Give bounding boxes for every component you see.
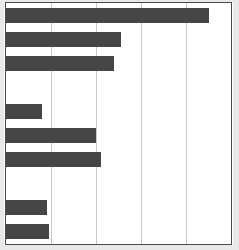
bar xyxy=(6,152,101,167)
bar-slot xyxy=(6,176,231,191)
bar-slot xyxy=(6,128,231,143)
bar-slot xyxy=(6,224,231,239)
bar-slot xyxy=(6,80,231,95)
image-edge-bottom xyxy=(0,245,239,250)
bar-slot xyxy=(6,152,231,167)
image-edge-left xyxy=(0,0,4,250)
bar-slot xyxy=(6,104,231,119)
bar-slot xyxy=(6,8,231,23)
bar xyxy=(6,128,96,143)
bar xyxy=(6,8,209,23)
bar-chart xyxy=(0,0,239,250)
image-edge-right xyxy=(233,0,239,250)
bar-slot xyxy=(6,32,231,47)
bar xyxy=(6,104,42,119)
bar xyxy=(6,200,47,215)
bar-slot xyxy=(6,56,231,71)
bar xyxy=(6,56,114,71)
plot-area xyxy=(6,3,231,244)
bar xyxy=(6,32,121,47)
bar-slot xyxy=(6,200,231,215)
bar xyxy=(6,224,49,239)
